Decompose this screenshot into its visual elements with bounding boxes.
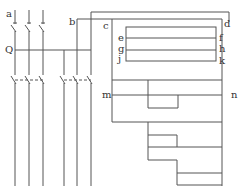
- label-c: c: [103, 21, 109, 31]
- label-k: k: [219, 56, 225, 66]
- label-e: e: [118, 33, 124, 43]
- label-q: Q: [5, 45, 13, 55]
- label-b: b: [69, 17, 75, 27]
- label-a: a: [6, 9, 12, 19]
- inner-panel: [126, 27, 216, 61]
- label-d: d: [224, 19, 230, 29]
- bottom-switches: [11, 75, 92, 84]
- circuit-diagram: [0, 0, 243, 196]
- label-h: h: [219, 44, 225, 54]
- top-switches: [11, 23, 45, 32]
- label-m: m: [102, 90, 111, 100]
- label-f: f: [219, 33, 223, 43]
- label-j: j: [118, 54, 121, 64]
- label-n: n: [231, 90, 237, 100]
